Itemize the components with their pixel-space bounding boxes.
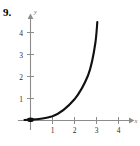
x-tick-label-2: 2 <box>73 126 77 135</box>
x-tick-label-3: 3 <box>95 126 99 135</box>
y-tick-label-1: 1 <box>19 95 23 104</box>
y-tick-label-3: 3 <box>19 51 23 60</box>
origin-point-marker <box>27 118 34 123</box>
exponential-curve <box>25 22 98 120</box>
x-tick-label-1: 1 <box>51 126 55 135</box>
x-tick-label-4: 4 <box>117 126 121 135</box>
y-axis-label: y <box>33 8 37 15</box>
exponential-graph: 1 2 3 4 1 2 3 4 y x <box>0 0 140 146</box>
x-axis-label: x <box>134 117 138 124</box>
y-tick-label-4: 4 <box>19 29 23 38</box>
y-tick-label-2: 2 <box>19 73 23 82</box>
figure-container: 9. 1 2 3 4 1 2 3 4 y x <box>0 0 140 146</box>
y-axis-arrowhead <box>28 14 34 20</box>
